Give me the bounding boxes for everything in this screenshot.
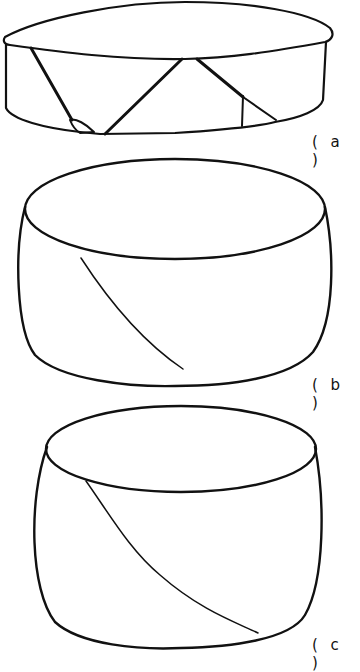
specimen-b	[18, 159, 331, 386]
specimen-c	[34, 406, 321, 648]
panel-label-b: ( b )	[312, 376, 360, 412]
specimen-b-top-ellipse	[25, 159, 325, 259]
fracture-line-1	[31, 48, 72, 120]
fracture-line-4	[243, 97, 276, 120]
specimen-a-top-ellipse	[4, 2, 333, 59]
crack-c	[86, 481, 258, 633]
fracture-line-2	[105, 59, 182, 134]
fracture-line-3	[197, 59, 243, 97]
specimen-b-side-outline	[18, 207, 331, 386]
panel-label-a: ( a )	[312, 133, 360, 169]
specimen-c-top-ellipse	[46, 406, 316, 492]
panel-label-c: ( c )	[312, 636, 360, 672]
specimen-a	[4, 2, 333, 134]
fracture-vertical	[242, 96, 243, 126]
crack-b	[81, 258, 183, 369]
